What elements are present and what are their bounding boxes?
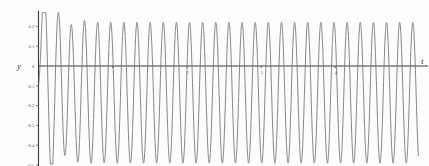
y-axis-label: y [16,61,21,71]
x-tick-label: 3 [260,70,263,75]
oscillation-plot: 0.20.10-0.1-0.2-0.3-0.4-0.51234 y t [0,0,429,166]
y-tick-label: -0.3 [27,123,35,128]
y-tick-label: 0 [32,64,35,69]
y-tick-label: -0.5 [27,163,35,166]
x-tick-label: 4 [335,70,338,75]
x-tick-label: 2 [186,70,189,75]
x-tick-label: 1 [112,70,115,75]
oscillation-path [39,13,419,164]
x-axis-label: t [421,56,424,66]
y-tick-label: -0.2 [27,103,35,108]
y-tick-label: 0.1 [29,44,35,49]
y-tick-label: -0.1 [27,84,35,89]
y-tick-label: 0.2 [29,24,35,29]
waveform-curve [39,13,419,164]
chart-figure: 0.20.10-0.1-0.2-0.3-0.4-0.51234 y t [0,0,429,166]
y-tick-label: -0.4 [27,143,35,148]
